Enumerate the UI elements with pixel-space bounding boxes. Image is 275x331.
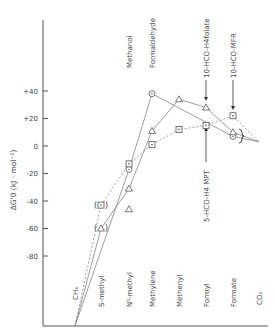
free-energy-chart: +40+200-20-40-60-80 ΔG'0 (kJ · mol⁻¹) CH… <box>0 0 275 331</box>
bracket-close: ) <box>105 224 108 233</box>
category-label: CO₂ <box>256 292 264 305</box>
y-tick-label: 0 <box>34 143 38 151</box>
y-axis-label: ΔG'0 (kJ · mol⁻¹) <box>9 150 18 211</box>
category-labels: CH₄S-methylN⁵-methylMethyleneMethenylFor… <box>72 270 264 307</box>
category-label: Formate <box>230 278 238 307</box>
arrowhead-icon <box>231 106 235 110</box>
y-tick-label: -80 <box>27 253 38 261</box>
curly-brace-icon <box>239 129 244 143</box>
bracket-open: ( <box>94 201 97 210</box>
y-tick-label: -20 <box>27 170 38 178</box>
triangle-marker-icon <box>126 185 133 191</box>
arrowhead-icon <box>204 97 208 101</box>
y-ticks: +40+200-20-40-60-80 <box>23 88 48 261</box>
triangle-marker-icon <box>176 96 183 102</box>
top-label: Formaldehyde <box>149 18 157 68</box>
category-label: S-methyl <box>98 276 106 307</box>
top-label: 10-HCO-H4folate <box>203 18 211 78</box>
category-label: N⁵-methyl <box>126 272 134 307</box>
category-label: Methenyl <box>176 275 184 307</box>
triangle-marker-icon <box>98 225 105 231</box>
y-tick-label: -40 <box>27 198 38 206</box>
category-label: Methylene <box>149 270 157 307</box>
top-label: 10-HCO-MFR <box>230 33 238 78</box>
category-label: Formyl <box>203 283 211 307</box>
y-tick-label: -60 <box>27 225 38 233</box>
y-tick-label: +40 <box>23 88 38 96</box>
bottom-annotation: 5-HCO-H4 MPT <box>203 169 211 222</box>
top-label: Methanol <box>126 35 134 68</box>
triangle-marker-icon <box>126 206 133 212</box>
category-label: CH₄ <box>72 287 80 300</box>
bracket-close: ) <box>105 201 108 210</box>
y-tick-label: +20 <box>23 115 38 123</box>
